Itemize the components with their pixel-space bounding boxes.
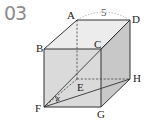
vertex-label-e: E: [77, 81, 84, 93]
vertex-label-f: F: [35, 102, 41, 114]
vertex-label-a: A: [67, 9, 75, 21]
vertex-label-b: B: [36, 42, 43, 54]
vertex-label-c: C: [94, 38, 101, 50]
vertex-label-g: G: [97, 108, 105, 120]
vertex-label-d: D: [132, 13, 140, 25]
angle-label: x: [55, 93, 60, 103]
edge-length-label: 5: [101, 6, 107, 18]
cube-diagram: A D B C E H F G 5 x: [0, 0, 152, 124]
vertex-label-h: H: [133, 72, 141, 84]
